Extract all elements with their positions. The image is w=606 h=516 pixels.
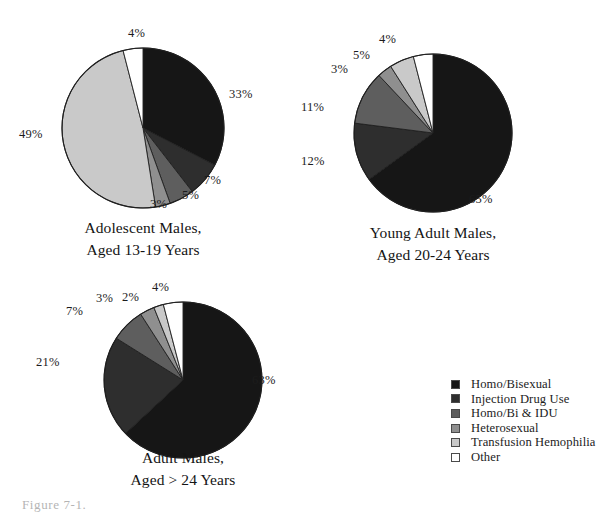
- pie-adolescent-caption: Adolescent Males, Aged 13-19 Years: [55, 217, 231, 261]
- legend-label: Homo/Bi & IDU: [471, 407, 558, 420]
- legend-item-other[interactable]: Other: [451, 450, 596, 465]
- pct-label-young-adult-homo-bi: 65%: [469, 193, 493, 206]
- pct-label-young-adult-other: 4%: [379, 33, 396, 46]
- caption-line-2: Aged 13-19 Years: [55, 239, 231, 261]
- pct-label-young-adult-idu: 12%: [301, 155, 325, 168]
- figure-bottom-caption: Figure 7-1.: [22, 497, 86, 513]
- legend-label: Injection Drug Use: [471, 393, 569, 406]
- legend-item-heterosexual[interactable]: Heterosexual: [451, 421, 596, 436]
- legend-item-transfusion-hemophilia[interactable]: Transfusion Hemophilia: [451, 435, 596, 450]
- pie-young-adult-svg: [345, 50, 521, 216]
- legend-item-homo-bisexual[interactable]: Homo/Bisexual: [451, 377, 596, 392]
- pct-label-adult-idu: 21%: [36, 356, 60, 369]
- legend-swatch-icon: [451, 380, 460, 389]
- caption-line-2: Aged 20-24 Years: [345, 244, 521, 266]
- caption-line-2: Aged > 24 Years: [95, 469, 271, 491]
- legend-swatch-icon: [451, 424, 460, 433]
- legend-swatch-icon: [451, 409, 460, 418]
- pie-chart-adolescent-males: Adolescent Males, Aged 13-19 Years: [55, 45, 231, 267]
- caption-line-1: Adult Males,: [95, 447, 271, 469]
- caption-line-1: Young Adult Males,: [345, 222, 521, 244]
- legend-item-injection-drug-use[interactable]: Injection Drug Use: [451, 392, 596, 407]
- legend-swatch-icon: [451, 394, 460, 403]
- caption-line-1: Adolescent Males,: [55, 217, 231, 239]
- pct-label-adolescent-homobi-idu: 5%: [182, 189, 199, 202]
- pie-young-adult-canvas: [345, 50, 521, 216]
- pie-chart-adult-males: Adult Males, Aged > 24 Years: [95, 297, 271, 516]
- pct-label-adult-homo-bi: 63%: [252, 374, 276, 387]
- legend: Homo/Bisexual Injection Drug Use Homo/Bi…: [451, 377, 596, 465]
- pct-label-adult-homobi-idu: 7%: [66, 305, 83, 318]
- pct-label-adult-hetero: 3%: [96, 292, 113, 305]
- legend-label: Homo/Bisexual: [471, 378, 551, 391]
- pct-label-adolescent-hetero: 3%: [150, 198, 167, 211]
- legend-item-homo-bi-and-idu[interactable]: Homo/Bi & IDU: [451, 406, 596, 421]
- pie-adult-canvas: [95, 297, 271, 463]
- legend-swatch-icon: [451, 453, 460, 462]
- pie-young-adult-caption: Young Adult Males, Aged 20-24 Years: [345, 222, 521, 266]
- pct-label-adolescent-other: 4%: [128, 27, 145, 40]
- legend-label: Transfusion Hemophilia: [471, 436, 596, 449]
- pct-label-adolescent-homo-bi: 33%: [229, 88, 253, 101]
- pct-label-adolescent-idu: 7%: [204, 174, 221, 187]
- legend-label: Heterosexual: [471, 422, 539, 435]
- pct-label-young-adult-homobi-idu: 11%: [301, 101, 324, 114]
- pct-label-young-adult-transfusion: 5%: [353, 49, 370, 62]
- pct-label-young-adult-hetero: 3%: [331, 63, 348, 76]
- pct-label-adolescent-transfusion: 49%: [19, 128, 43, 141]
- pie-chart-young-adult-males: Young Adult Males, Aged 20-24 Years: [345, 50, 521, 272]
- pct-label-adult-other: 4%: [152, 281, 169, 294]
- pct-label-adult-transfusion: 2%: [122, 291, 139, 304]
- pie-adult-svg: [95, 297, 271, 463]
- pie-adult-caption: Adult Males, Aged > 24 Years: [95, 447, 271, 491]
- legend-swatch-icon: [451, 438, 460, 447]
- legend-label: Other: [471, 451, 500, 464]
